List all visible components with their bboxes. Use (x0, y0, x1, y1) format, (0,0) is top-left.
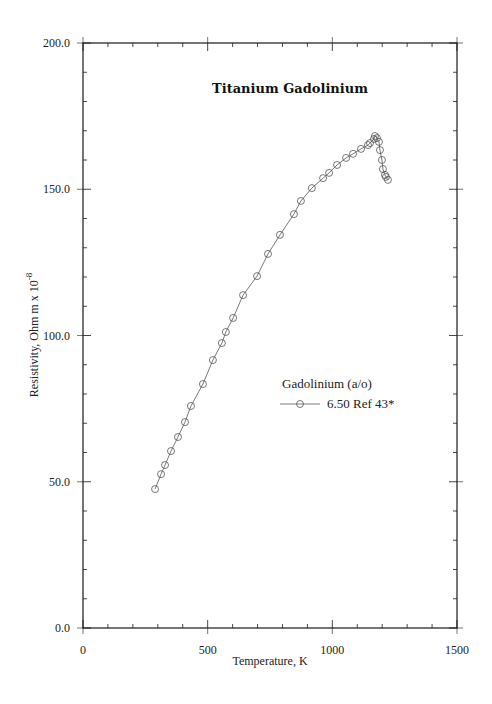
tick-labels: 0500100015000.050.0100.0150.0200.0 (43, 36, 469, 657)
x-tick-label: 1500 (445, 643, 469, 657)
y-axis-title-text: Resistivity, Ohm m x 10 (27, 280, 41, 397)
y-axis-title-superscript: -8 (24, 272, 34, 280)
y-tick-label: 100.0 (43, 329, 70, 343)
legend-title: Gadolinium (a/o) (282, 376, 372, 391)
chart-title: Titanium Gadolinium (212, 81, 368, 96)
legend-entry-label: 6.50 Ref 43* (327, 396, 395, 411)
plot-frame (83, 43, 457, 628)
x-tick-label: 1000 (320, 643, 344, 657)
resistivity-chart: 0500100015000.050.0100.0150.0200.0 Titan… (0, 0, 492, 704)
y-tick-label: 150.0 (43, 182, 70, 196)
legend: Gadolinium (a/o) 6.50 Ref 43* (280, 376, 395, 411)
x-tick-label: 500 (199, 643, 217, 657)
series-line (155, 136, 388, 489)
data-series (152, 133, 392, 493)
plot-border (83, 43, 457, 628)
y-tick-label: 200.0 (43, 36, 70, 50)
y-axis-title-group: Resistivity, Ohm m x 10-8 (24, 272, 41, 397)
x-axis-title: Temperature, K (232, 654, 307, 668)
x-tick-label: 0 (80, 643, 86, 657)
y-axis-title: Resistivity, Ohm m x 10-8 (24, 272, 41, 397)
y-tick-label: 0.0 (55, 621, 70, 635)
axis-ticks (77, 37, 463, 634)
y-tick-label: 50.0 (49, 475, 70, 489)
